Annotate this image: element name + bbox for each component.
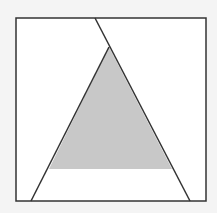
diagram-canvas	[0, 0, 217, 213]
